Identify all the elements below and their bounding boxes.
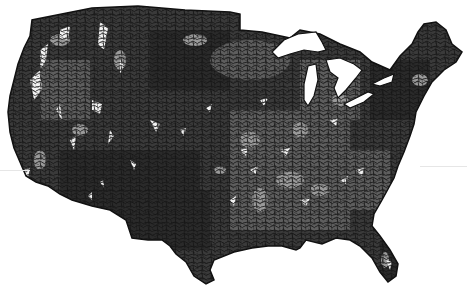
scan-line-right [420, 166, 467, 167]
us-landmass [0, 0, 467, 292]
scan-line-left [0, 170, 30, 171]
map-container [0, 0, 467, 292]
region-borders-secondary [0, 0, 467, 292]
us-choropleth-map [0, 0, 467, 292]
